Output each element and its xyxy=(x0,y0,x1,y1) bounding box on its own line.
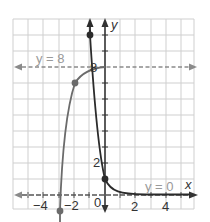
asymptote-label-y8: y = 8 xyxy=(36,51,65,66)
tick-0: 0 xyxy=(94,195,101,210)
curve-decreasing xyxy=(87,18,191,195)
tick-y8: 8 xyxy=(90,60,97,75)
point-neg1-10 xyxy=(87,32,94,39)
x-axis-label: x xyxy=(184,177,192,192)
tick-2: 2 xyxy=(131,199,138,214)
tick-neg2: −2 xyxy=(64,198,79,213)
tick-neg4: −4 xyxy=(33,198,48,213)
point-0-1 xyxy=(102,176,109,183)
tick-y2: 2 xyxy=(93,155,100,170)
tick-4: 4 xyxy=(162,199,169,214)
asymptote-label-y0: y = 0 xyxy=(145,179,174,194)
point-neg2-7 xyxy=(72,80,79,87)
point-neg3-neg1 xyxy=(57,208,64,215)
graph: y x −4 −2 0 2 4 2 8 y = 8 y = 0 xyxy=(0,0,210,222)
